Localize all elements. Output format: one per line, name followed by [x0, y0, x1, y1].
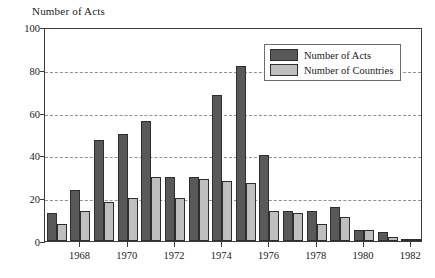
y-axis-tick-mark — [40, 71, 45, 72]
y-axis-tick-mark — [40, 156, 45, 157]
bar-group — [330, 207, 350, 241]
bar-acts — [212, 95, 222, 241]
x-axis-tick-label: 1974 — [211, 250, 232, 261]
bar-group — [307, 211, 327, 241]
bar-acts — [165, 177, 175, 241]
x-axis-tick-label: 1972 — [163, 250, 184, 261]
bar-countries — [246, 183, 256, 241]
bar-acts — [378, 232, 388, 241]
y-axis-tick-labels: 020406080100 — [0, 28, 40, 242]
x-axis-tick-mark — [79, 242, 80, 247]
legend-item-countries: Number of Countries — [270, 64, 393, 76]
bar-group — [94, 140, 114, 241]
bar-countries — [175, 198, 185, 241]
bar-acts — [141, 121, 151, 241]
x-axis-tick-label: 1976 — [258, 250, 279, 261]
y-axis-title: Number of Acts — [32, 5, 105, 17]
bar-acts — [330, 207, 340, 241]
y-axis-tick-mark — [40, 199, 45, 200]
x-axis: 19681970197219741976197819801982 — [44, 242, 422, 272]
x-axis-tick-mark — [363, 242, 364, 247]
y-axis-tick-label: 80 — [0, 65, 40, 76]
y-axis-tick-label: 100 — [0, 23, 40, 34]
bar-acts — [307, 211, 317, 241]
legend-label-acts: Number of Acts — [304, 50, 371, 61]
bar-countries — [199, 179, 209, 241]
x-axis-tick-mark — [174, 242, 175, 247]
bar-countries — [269, 211, 279, 241]
x-axis-tick-label: 1982 — [400, 250, 421, 261]
x-axis-tick-label: 1968 — [69, 250, 90, 261]
bar-group — [236, 66, 256, 241]
bar-acts — [70, 190, 80, 241]
y-axis-tick-label: 40 — [0, 151, 40, 162]
legend-swatch-acts — [270, 49, 298, 61]
bar-group — [283, 211, 303, 241]
x-axis-tick-mark — [316, 242, 317, 247]
bar-group — [70, 190, 90, 241]
bar-group — [165, 177, 185, 241]
bar-countries — [317, 224, 327, 241]
bar-group — [212, 95, 232, 241]
y-axis-tick-mark — [40, 242, 45, 243]
chart-container: Number of Acts 020406080100 196819701972… — [0, 0, 435, 278]
x-axis-tick-mark — [268, 242, 269, 247]
bar-countries — [128, 198, 138, 241]
bar-countries — [222, 181, 232, 241]
y-axis-tick-label: 20 — [0, 194, 40, 205]
bar-group — [259, 155, 279, 241]
bar-acts — [47, 213, 57, 241]
legend-item-acts: Number of Acts — [270, 49, 393, 61]
bar-countries — [364, 230, 374, 241]
x-axis-tick-mark — [127, 242, 128, 247]
bar-acts — [236, 66, 246, 241]
chart-legend: Number of Acts Number of Countries — [264, 44, 401, 81]
bar-group — [189, 177, 209, 241]
bar-countries — [57, 224, 67, 241]
bar-acts — [354, 230, 364, 241]
bar-acts — [94, 140, 104, 241]
bar-countries — [388, 237, 398, 241]
bar-acts — [259, 155, 269, 241]
bar-acts — [189, 177, 199, 241]
bar-group — [141, 121, 161, 241]
y-axis-tick-label: 60 — [0, 108, 40, 119]
bar-group — [378, 232, 398, 241]
legend-label-countries: Number of Countries — [304, 65, 393, 76]
x-axis-tick-label: 1978 — [305, 250, 326, 261]
bar-countries — [411, 239, 421, 241]
bar-countries — [340, 217, 350, 241]
bar-countries — [151, 177, 161, 241]
bar-acts — [118, 134, 128, 241]
x-axis-tick-label: 1980 — [352, 250, 373, 261]
bar-countries — [293, 213, 303, 241]
x-axis-tick-label: 1970 — [116, 250, 137, 261]
legend-swatch-countries — [270, 64, 298, 76]
bar-group — [354, 230, 374, 241]
x-axis-tick-mark — [221, 242, 222, 247]
y-axis-tick-mark — [40, 28, 45, 29]
bar-acts — [283, 211, 293, 241]
bar-group — [118, 134, 138, 241]
bar-acts — [401, 239, 411, 241]
bar-countries — [104, 202, 114, 241]
bar-group — [47, 213, 67, 241]
y-axis-tick-label: 0 — [0, 237, 40, 248]
y-axis-tick-mark — [40, 114, 45, 115]
bar-group — [401, 239, 421, 241]
bar-countries — [80, 211, 90, 241]
x-axis-tick-mark — [410, 242, 411, 247]
